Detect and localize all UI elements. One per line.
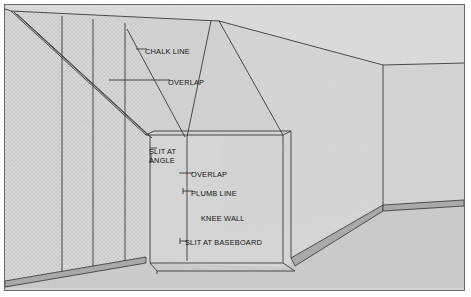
label-chalk-line: CHALK LINE	[145, 48, 190, 57]
diagram-frame: CHALK LINEOVERLAPSLIT ATANGLEOVERLAPPLUM…	[4, 4, 465, 291]
label-plumb-line: PLUMB LINE	[191, 190, 237, 199]
label-slit-at-baseboard: SLIT AT BASEBOARD	[185, 239, 262, 248]
diagram-canvas: CHALK LINEOVERLAPSLIT ATANGLEOVERLAPPLUM…	[0, 0, 471, 297]
label-slit-at-angle-2: ANGLE	[149, 157, 175, 166]
label-overlap-upper: OVERLAP	[168, 79, 204, 88]
label-knee-wall: KNEE WALL	[201, 215, 245, 224]
label-overlap-lower: OVERLAP	[191, 171, 227, 180]
